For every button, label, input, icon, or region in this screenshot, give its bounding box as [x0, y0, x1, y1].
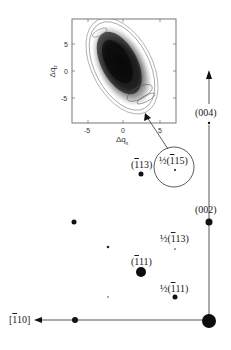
spot-lower-left: [107, 296, 109, 298]
diffraction-spots: [72, 122, 217, 328]
label-direction-m110: [110]: [9, 315, 30, 325]
highlight-circle: [154, 147, 194, 187]
inset-x-tick-0: 0: [121, 127, 125, 134]
label-half-m115: ½(115): [159, 156, 188, 166]
spot-half-m111: [173, 295, 178, 300]
spot-mid-left: [107, 246, 110, 249]
spot-origin: [202, 314, 216, 328]
diagram-svg: [0, 0, 231, 350]
inset-y-tick-5: 5: [64, 41, 68, 48]
spot-002: [206, 219, 213, 226]
spot-half-m115: [174, 169, 176, 171]
inset-plot: [71, 6, 176, 126]
label-004: (004): [195, 108, 217, 118]
spot-upper-left: [72, 220, 77, 225]
label-half-m111: ½(111): [160, 284, 188, 294]
diagram-stage: -5 0 5 5 0 -5 Δqx Δqz (004) (002) (113) …: [0, 0, 231, 350]
label-half-m113: ½(113): [160, 234, 189, 244]
label-m113: (113): [131, 160, 152, 170]
spot-m113: [139, 172, 144, 177]
inset-y-tick-m5: -5: [61, 95, 67, 102]
label-002: (002): [195, 205, 217, 215]
spot-m111: [136, 267, 146, 277]
inset-x-tick-m5: -5: [84, 127, 90, 134]
label-m111: (111): [131, 257, 152, 267]
inset-y-axis-title: Δqz: [49, 65, 60, 77]
spot-half-m113: [174, 248, 176, 250]
inset-x-tick-5: 5: [158, 127, 162, 134]
horizontal-axis: [34, 317, 209, 323]
spot-004: [208, 122, 210, 124]
inset-y-tick-0: 0: [64, 68, 68, 75]
inset-x-axis-title: Δqx: [116, 136, 128, 147]
spot-m110: [72, 317, 78, 323]
